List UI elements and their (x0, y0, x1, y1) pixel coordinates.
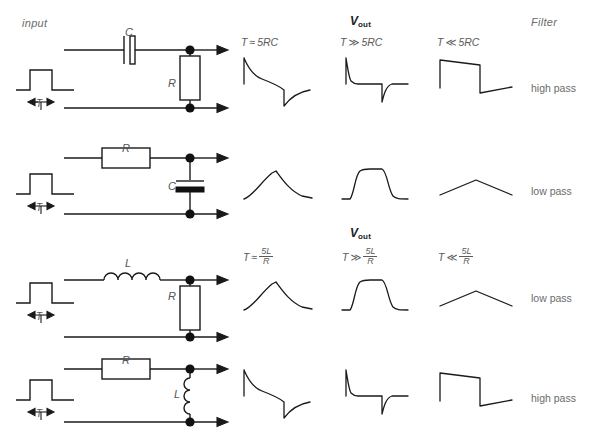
component-label-series-row1: C (125, 26, 133, 38)
cond-fraction: 5LR (459, 247, 473, 267)
cond-tau: 5RC (458, 36, 479, 48)
input-period-label-row2: T (36, 202, 42, 213)
cond-operator: ≈ (249, 251, 259, 263)
header-vout-row3: Vout (350, 226, 371, 240)
vout-subscript: out (358, 232, 371, 241)
cond-operator: ≫ (346, 36, 361, 48)
filter-type-row2: low pass (531, 185, 572, 197)
vout-subscript: out (358, 20, 371, 29)
cond-tau: 5RC (257, 36, 278, 48)
filter-type-row1: high pass (531, 82, 576, 94)
circuit-row4 (62, 352, 232, 432)
vout-symbol: V (350, 226, 358, 240)
input-period-label-row1: T (36, 98, 42, 109)
cond-operator: ≪ (444, 251, 459, 263)
cond-operator: ≈ (247, 36, 257, 48)
component-label-shunt-row1: R (168, 77, 176, 89)
waveform-1-row2 (240, 155, 320, 210)
header-input: input (22, 17, 47, 29)
cond-operator: ≪ (443, 36, 458, 48)
filter-type-row4: high pass (531, 392, 576, 404)
component-label-shunt-row2: C (168, 180, 176, 192)
waveform-2-row3 (338, 266, 418, 321)
fraction-numerator: 5L (259, 247, 273, 256)
waveform-3-row1 (436, 50, 521, 118)
waveform-3-row4 (436, 365, 521, 430)
component-label-shunt-row4: L (174, 388, 180, 400)
vout-symbol: V (350, 14, 358, 28)
cond-tau: 5RC (361, 36, 382, 48)
waveform-3-row3 (436, 266, 521, 321)
filter-type-row3: low pass (531, 292, 572, 304)
input-period-label-row4: T (36, 408, 42, 419)
component-label-series-row4: R (122, 354, 130, 366)
waveform-3-row2 (436, 155, 521, 210)
condition-1-row3: T≈5LR (243, 248, 273, 268)
header-filter: Filter (531, 16, 557, 28)
waveform-2-row2 (338, 155, 418, 210)
header-vout-row1: Vout (350, 14, 371, 28)
condition-3-row3: T≪5LR (438, 248, 473, 268)
input-period-label-row3: T (36, 311, 42, 322)
cond-fraction: 5LR (259, 247, 273, 267)
waveform-2-row1 (338, 50, 418, 118)
circuit-row3 (62, 255, 232, 345)
condition-3-row1: T≪5RC (437, 36, 479, 48)
circuit-row2 (62, 140, 232, 225)
waveform-1-row1 (240, 50, 320, 118)
waveform-1-row3 (240, 266, 320, 321)
condition-2-row3: T≫5LR (342, 248, 377, 268)
component-label-shunt-row3: R (168, 290, 176, 302)
condition-2-row1: T≫5RC (340, 36, 382, 48)
waveform-2-row4 (338, 365, 418, 430)
fraction-numerator: 5L (363, 247, 377, 256)
condition-1-row1: T≈5RC (241, 36, 278, 48)
fraction-numerator: 5L (459, 247, 473, 256)
component-label-series-row3: L (125, 257, 131, 269)
waveform-1-row4 (240, 365, 320, 430)
cond-fraction: 5LR (363, 247, 377, 267)
cond-operator: ≫ (348, 251, 363, 263)
component-label-series-row2: R (122, 142, 130, 154)
circuit-row1 (62, 22, 232, 117)
